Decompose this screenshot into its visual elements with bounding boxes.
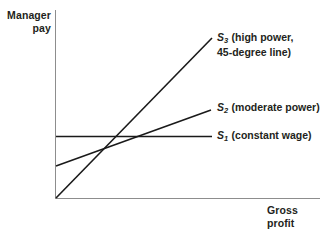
series-description-s2: (moderate power) [232,101,320,113]
series-description-s3-line1: (high power, [232,31,294,43]
series-label-s1: S1 (constant wage) [217,129,312,144]
series-symbol-s2: S [217,101,224,113]
series-description-s1: (constant wage) [232,129,312,141]
series-symbol-s1: S [217,129,224,141]
x-axis-label: Gross profit [267,204,335,229]
y-axis-label: Manager pay [0,9,51,34]
series-label-s3: S3 (high power, 45-degree line) [217,31,293,58]
series-label-s2: S2 (moderate power) [217,101,320,116]
series-subscript-s1: 1 [224,134,229,143]
series-symbol-s3: S [217,31,224,43]
series-description-s3-line2: 45-degree line) [217,46,293,59]
chart-figure: Manager pay Gross profit S3 (high power,… [0,0,335,239]
series-subscript-s2: 2 [224,106,229,115]
series-subscript-s3: 3 [224,36,229,45]
